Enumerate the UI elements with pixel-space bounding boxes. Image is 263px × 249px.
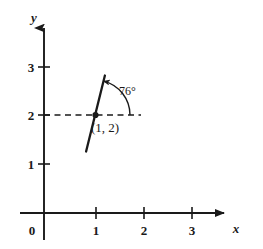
- origin-label: 0: [29, 223, 36, 238]
- y-tick-label-1: 1: [28, 157, 35, 172]
- graph-figure: 1 2 3 1 2 3 0 x y 76° (1, 2): [0, 0, 263, 249]
- x-tick-label-1: 1: [93, 223, 100, 238]
- y-tick-label-3: 3: [28, 60, 35, 75]
- x-tick-label-2: 2: [141, 223, 148, 238]
- x-tick-label-3: 3: [189, 223, 196, 238]
- y-axis-label: y: [29, 10, 37, 25]
- x-axis-label: x: [232, 221, 240, 236]
- angle-label: 76°: [119, 84, 136, 98]
- y-tick-label-2: 2: [28, 108, 35, 123]
- coordinate-plane-svg: 1 2 3 1 2 3 0 x y 76° (1, 2): [0, 0, 263, 249]
- point-coordinate-label: (1, 2): [91, 120, 119, 135]
- point-marker: [92, 112, 98, 118]
